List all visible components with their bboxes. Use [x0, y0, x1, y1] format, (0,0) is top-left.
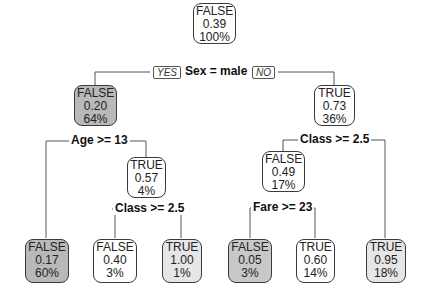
- node-root[interactable]: FALSE 0.39 100%: [193, 3, 236, 44]
- edge-age-left: [46, 141, 70, 238]
- node-false-020[interactable]: FALSE 0.20 64%: [74, 85, 117, 126]
- leaf-true-060[interactable]: TRUE 0.60 14%: [296, 239, 335, 283]
- edge-classr-right: [368, 140, 385, 238]
- node-percent: 64%: [77, 113, 114, 126]
- leaf-true-100[interactable]: TRUE 1.00 1%: [162, 239, 202, 283]
- node-percent: 18%: [369, 267, 403, 280]
- leaf-true-095[interactable]: TRUE 0.95 18%: [366, 239, 406, 283]
- edge-root-right: [278, 72, 334, 85]
- split-class-left: Class >= 2.5: [113, 202, 186, 215]
- node-percent: 1%: [165, 267, 199, 280]
- node-true-057[interactable]: TRUE 0.57 4%: [127, 157, 166, 198]
- leaf-false-040[interactable]: FALSE 0.40 3%: [93, 239, 137, 283]
- node-percent: 3%: [96, 267, 134, 280]
- edge-root-left: [95, 72, 150, 85]
- leaf-false-005[interactable]: FALSE 0.05 3%: [228, 239, 272, 283]
- node-percent: 14%: [299, 267, 332, 280]
- node-percent: 4%: [130, 185, 163, 198]
- node-true-073[interactable]: TRUE 0.73 36%: [314, 85, 355, 126]
- node-false-049[interactable]: FALSE 0.49 17%: [262, 151, 305, 192]
- split-fare: Fare >= 23: [251, 201, 314, 214]
- node-percent: 60%: [28, 267, 66, 280]
- node-percent: 17%: [265, 179, 302, 192]
- split-age: Age >= 13: [69, 134, 130, 147]
- split-sex: Sex = male: [183, 65, 249, 78]
- node-percent: 36%: [317, 113, 352, 126]
- yes-tag: YES: [153, 66, 181, 79]
- no-tag: NO: [252, 66, 275, 79]
- leaf-false-017[interactable]: FALSE 0.17 60%: [25, 239, 69, 283]
- node-percent: 3%: [231, 267, 269, 280]
- split-class-right: Class >= 2.5: [298, 133, 371, 146]
- node-percent: 100%: [196, 31, 233, 44]
